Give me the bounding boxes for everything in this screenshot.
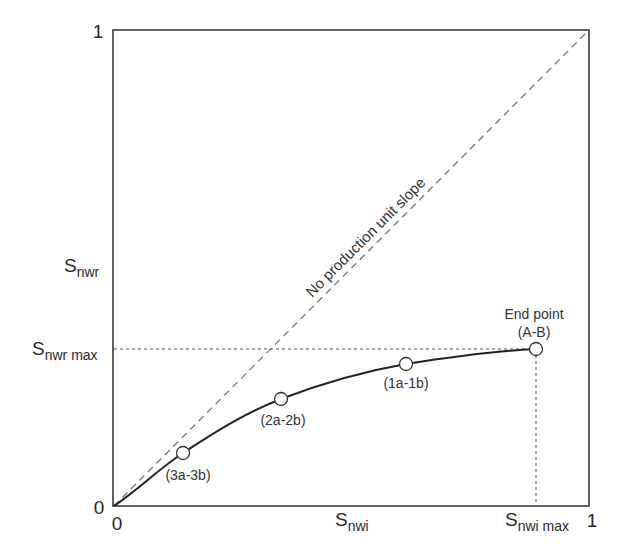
- point-2a-2b-label: (2a-2b): [260, 412, 305, 428]
- x-axis-label: Snwi: [335, 509, 369, 534]
- point-1a-1b-label: (1a-1b): [383, 375, 428, 391]
- x-tick-1: 1: [587, 510, 598, 531]
- y-max-label: Snwr max: [32, 338, 98, 363]
- point-1a-1b-marker: [400, 358, 413, 371]
- end-point-ab-label: (A-B): [518, 324, 551, 340]
- chart-canvas: (3a-3b) (2a-2b) (1a-1b) End point (A-B) …: [0, 0, 622, 558]
- end-point-label: End point: [504, 306, 563, 322]
- y-tick-1: 1: [93, 21, 104, 42]
- point-3a-3b-marker: [177, 447, 190, 460]
- y-axis-label: Snwr: [64, 255, 100, 280]
- point-3a-3b-label: (3a-3b): [165, 467, 210, 483]
- unit-slope-line: [114, 30, 589, 506]
- end-point-marker: [530, 343, 543, 356]
- point-2a-2b-marker: [275, 393, 288, 406]
- x-max-label: Snwi max: [505, 509, 569, 534]
- unit-slope-label: No production unit slope: [302, 174, 428, 300]
- x-tick-0: 0: [112, 513, 123, 534]
- y-tick-0: 0: [94, 497, 105, 518]
